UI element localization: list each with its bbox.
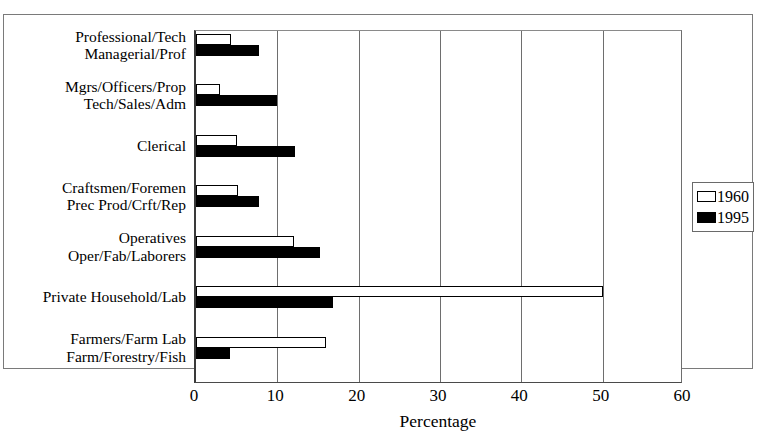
bar-1960	[196, 135, 237, 146]
plot-area	[194, 30, 682, 383]
x-axis-title: Percentage	[194, 411, 682, 432]
bar-1960	[196, 84, 220, 95]
category-label: Craftsmen/ForemenPrec Prod/Crft/Rep	[4, 179, 186, 214]
bar-1995	[196, 196, 259, 207]
category-label: Farmers/Farm LabFarm/Forestry/Fish	[4, 330, 186, 365]
chart-category-row	[196, 283, 681, 333]
x-tick-label: 10	[267, 386, 284, 406]
category-label-line: Clerical	[4, 137, 186, 155]
legend-label: 1960	[717, 188, 749, 206]
bar-1995	[196, 297, 333, 308]
category-axis-labels: Professional/TechManagerial/ProfMgrs/Off…	[4, 30, 190, 383]
chart-category-row	[196, 182, 681, 232]
category-label-line: Farm/Forestry/Fish	[4, 348, 186, 366]
category-label-line: Prec Prod/Crft/Rep	[4, 196, 186, 214]
bar-1960	[196, 337, 326, 348]
bar-1995	[196, 247, 320, 258]
category-label: Mgrs/Officers/PropTech/Sales/Adm	[4, 78, 186, 113]
chart-category-row	[196, 132, 681, 182]
category-label-line: Oper/Fab/Laborers	[4, 247, 186, 265]
bar-1995	[196, 45, 259, 56]
x-tick-label: 50	[592, 386, 609, 406]
category-label-line: Farmers/Farm Lab	[4, 330, 186, 348]
category-label-line: Private Household/Lab	[4, 288, 186, 306]
category-label: Clerical	[4, 137, 186, 155]
chart-legend: 19601995	[692, 182, 754, 232]
category-label-line: Professional/Tech	[4, 28, 186, 46]
x-axis-tick-labels: 0102030405060	[4, 386, 757, 410]
bar-1960	[196, 236, 294, 247]
chart-category-row	[196, 233, 681, 283]
legend-entry[interactable]: 1995	[697, 207, 750, 228]
x-tick-label: 30	[430, 386, 447, 406]
bar-1995	[196, 146, 295, 157]
bar-1960	[196, 286, 603, 297]
category-label-line: Craftsmen/Foremen	[4, 179, 186, 197]
chart-category-row	[196, 334, 681, 384]
legend-entry[interactable]: 1960	[697, 186, 750, 207]
category-label: Private Household/Lab	[4, 288, 186, 306]
x-tick-label: 0	[190, 386, 199, 406]
legend-swatch-icon	[697, 191, 716, 202]
chart-outer-frame: Professional/TechManagerial/ProfMgrs/Off…	[3, 14, 753, 369]
chart-category-row	[196, 81, 681, 131]
bar-1995	[196, 348, 230, 359]
legend-label: 1995	[717, 209, 749, 227]
category-label: Professional/TechManagerial/Prof	[4, 28, 186, 63]
bar-1960	[196, 34, 231, 45]
chart-category-row	[196, 31, 681, 81]
category-label-line: Mgrs/Officers/Prop	[4, 78, 186, 96]
category-label-line: Tech/Sales/Adm	[4, 95, 186, 113]
bar-1960	[196, 185, 238, 196]
x-tick-label: 60	[674, 386, 691, 406]
bar-1995	[196, 95, 277, 106]
legend-swatch-icon	[697, 212, 716, 223]
category-label: OperativesOper/Fab/Laborers	[4, 229, 186, 264]
category-label-line: Managerial/Prof	[4, 45, 186, 63]
x-tick-label: 40	[511, 386, 528, 406]
category-label-line: Operatives	[4, 229, 186, 247]
x-tick-label: 20	[348, 386, 365, 406]
